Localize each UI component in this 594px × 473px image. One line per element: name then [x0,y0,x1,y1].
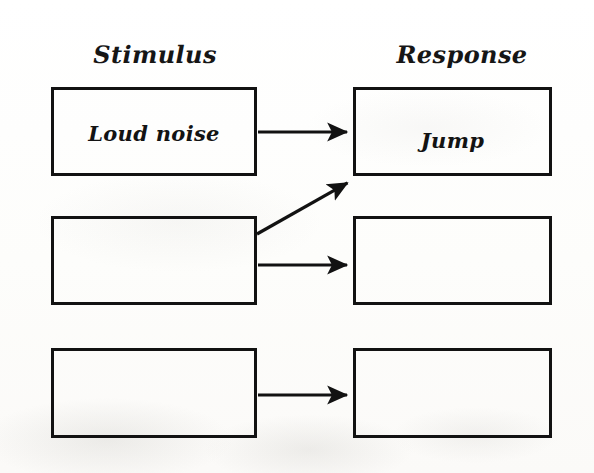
arrow-stimulus2-to-response1-diagonal [257,183,348,234]
response-box-1[interactable]: Jump [353,87,552,176]
column-header-response: Response [397,40,528,69]
stimulus-box-3[interactable] [51,348,257,438]
response-box-3[interactable] [353,348,552,438]
response-box-1-label: Jump [356,128,549,153]
stimulus-box-1-label: Loud noise [54,121,254,146]
stimulus-box-1[interactable]: Loud noise [51,87,257,176]
diagram-canvas: Stimulus Response Loud noise Jump [0,0,594,473]
response-box-2[interactable] [353,216,552,305]
column-header-stimulus: Stimulus [93,40,217,69]
stimulus-box-2[interactable] [51,216,257,305]
